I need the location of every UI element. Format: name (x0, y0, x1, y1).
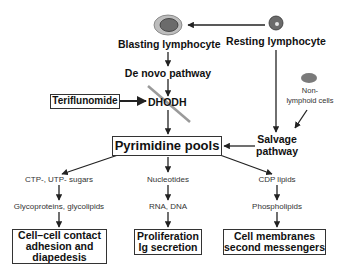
branch3-step2: Phospholipids (237, 202, 317, 211)
salvage-line2: pathway (252, 145, 302, 157)
branch3-outcome-box: Cell membranes second messengers (223, 229, 326, 255)
salvage-line1: Salvage (252, 133, 302, 145)
branch2-step2: RNA, DNA (128, 202, 208, 211)
branch2-outcome-line2: Ig secretion (139, 242, 198, 253)
salvage-pathway-label: Salvage pathway (252, 133, 302, 157)
non-lymphoid-line2: lymphoid cells (282, 96, 338, 106)
branch1-step2: Glycoproteins, glycolipids (4, 202, 114, 211)
non-lymphoid-line1: Non- (282, 86, 338, 96)
resting-lymphocyte-icon (269, 16, 283, 30)
blasting-lymphocyte-label: Blasting lymphocyte (118, 38, 218, 50)
non-lymphoid-label: Non- lymphoid cells (282, 86, 338, 106)
teriflunomide-label: Teriflunomide (52, 96, 117, 107)
branch1-outcome-box: Cell–cell contact adhesion and diapedesi… (12, 229, 107, 264)
resting-lymphocyte-label: Resting lymphocyte (226, 35, 326, 47)
blasting-lymphocyte-icon (154, 15, 182, 35)
branch2-step1: Nucleotides (128, 175, 208, 184)
pyrimidine-pools-label: Pyrimidine pools (115, 139, 220, 153)
branch3-step1: CDP lipids (237, 175, 317, 184)
pyrimidine-pools-box: Pyrimidine pools (112, 136, 222, 156)
branch3-outcome-line2: second messengers (224, 242, 325, 253)
branch2-outcome-box: Proliferation Ig secretion (134, 229, 202, 255)
branch1-step1: CTP-, UTP- sugars (9, 175, 109, 184)
de-novo-pathway-label: De novo pathway (118, 67, 218, 79)
dhodh-label: DHODH (148, 96, 187, 108)
teriflunomide-box: Teriflunomide (50, 94, 120, 109)
branch1-outcome-line3: diapedesis (32, 252, 86, 263)
non-lymphoid-cell-icon (301, 73, 317, 83)
